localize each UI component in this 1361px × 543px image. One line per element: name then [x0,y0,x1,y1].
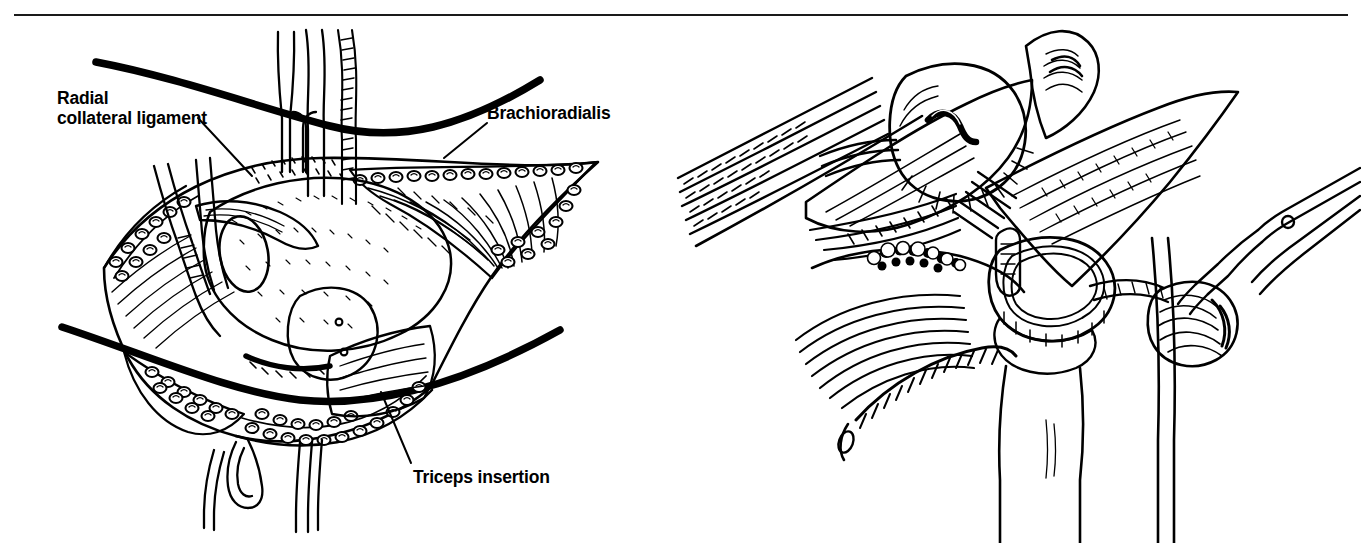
skin-contour-lower [62,327,560,401]
lower-retractor-loop [227,440,262,508]
surgical-scissors [1178,168,1360,314]
left-illustration-svg [0,0,680,543]
distal-humerus [806,80,1032,232]
panel-operative-exposure-view [0,0,680,543]
radial-shaft-shading [1046,420,1056,478]
wound-edge-fat-left [110,197,191,281]
muscle-tick-hatching-right [372,188,493,254]
capitellum-radiating-lines [902,148,1033,213]
figure-page: Radial collateral ligament Brachioradial… [0,0,1361,543]
tissue-strip [1090,280,1164,288]
joint-cut-line [246,356,330,369]
tendon-stump-ring [836,429,857,454]
panel-joint-detail-view [660,0,1361,543]
capitellum [890,64,1026,201]
label-triceps-insertion: Triceps insertion [413,467,550,487]
label-brachioradialis: Brachioradialis [487,103,610,123]
nutrient-foramen-2 [341,349,348,356]
cut-tissue-hatching [1158,295,1222,356]
tendon-stump [841,424,848,460]
right-illustration-svg [660,0,1361,543]
osteochondral-lesion [928,113,976,142]
label-radial-collateral-ligament: Radial collateral ligament [57,88,207,128]
radial-neck-shaft [999,366,1006,543]
two-prong-retractor [278,32,316,172]
nutrient-foramen-1 [336,319,343,326]
leader-line-brachioradialis [444,123,487,158]
tendon-coil-marks [860,349,998,428]
